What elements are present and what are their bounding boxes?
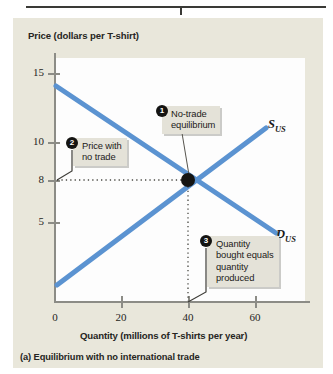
y-tick-label-8: 8 bbox=[18, 173, 44, 185]
annotation-3-badge: 3 bbox=[200, 235, 212, 247]
annotation-3-line-1: Quantity bbox=[216, 238, 274, 249]
y-tick-5 bbox=[48, 222, 60, 224]
supply-curve-label-sub: US bbox=[275, 124, 286, 134]
y-tick-10 bbox=[48, 142, 60, 144]
y-tick-label-10: 10 bbox=[18, 135, 44, 147]
y-tick-label-15: 15 bbox=[18, 66, 44, 78]
x-tick-60 bbox=[255, 296, 257, 308]
x-tick-label-60: 60 bbox=[242, 311, 268, 323]
page-top-rule bbox=[26, 6, 326, 8]
x-axis-title: Quantity (millions of T-shirts per year) bbox=[80, 330, 247, 341]
annotation-2-line-2: no trade bbox=[82, 151, 122, 162]
x-axis-line bbox=[54, 301, 310, 303]
supply-curve-label-text: S bbox=[268, 117, 275, 131]
annotation-3-line-3: quantity bbox=[216, 261, 274, 272]
annotation-1-box: No-trade equilibrium bbox=[162, 106, 220, 134]
y-tick-15 bbox=[48, 73, 60, 75]
annotation-3-line-2: bought equals bbox=[216, 249, 274, 260]
top-rule-tick-mark bbox=[180, 6, 182, 15]
demand-curve-label: DUS bbox=[276, 227, 296, 244]
demand-curve-label-sub: US bbox=[285, 234, 296, 244]
y-axis-line bbox=[54, 53, 56, 303]
x-tick-label-20: 20 bbox=[108, 311, 134, 323]
figure-caption: (a) Equilibrium with no international tr… bbox=[20, 352, 200, 362]
x-tick-20 bbox=[121, 296, 123, 308]
supply-curve-label: SUS bbox=[268, 117, 286, 134]
annotation-1-line-2: equilibrium bbox=[171, 119, 215, 130]
annotation-2-box: Price with no trade bbox=[73, 138, 127, 166]
annotation-3-box: Quantity bought equals quantity produced bbox=[207, 236, 279, 287]
x-tick-40 bbox=[188, 296, 190, 308]
annotation-1-badge: 1 bbox=[156, 105, 168, 117]
x-tick-label-40: 40 bbox=[175, 311, 201, 323]
annotation-2-line-1: Price with bbox=[82, 140, 122, 151]
annotation-2-badge: 2 bbox=[66, 137, 78, 149]
x-tick-label-0: 0 bbox=[42, 311, 68, 323]
y-axis-title: Price (dollars per T-shirt) bbox=[28, 30, 139, 41]
y-tick-8 bbox=[48, 180, 60, 182]
annotation-1-line-1: No-trade bbox=[171, 108, 215, 119]
y-tick-label-5: 5 bbox=[18, 215, 44, 227]
annotation-3-line-4: produced bbox=[216, 272, 274, 283]
